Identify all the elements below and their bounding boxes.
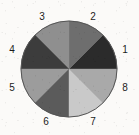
pie-label-8: 8 [122,83,128,93]
pie-chart-canvas [0,0,139,135]
pie-label-7: 7 [90,117,96,127]
pie-label-4: 4 [9,45,15,55]
pie-label-3: 3 [39,12,45,22]
pie-chart-figure: 12345678 [0,0,139,135]
pie-label-2: 2 [90,12,96,22]
pie-label-6: 6 [43,117,49,127]
pie-label-5: 5 [9,83,15,93]
pie-label-1: 1 [122,45,128,55]
